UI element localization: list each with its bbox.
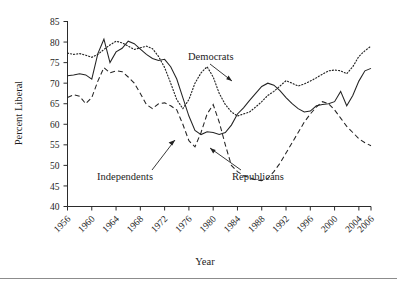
y-tick-label-55: 55 [50, 140, 60, 150]
y-tick-label-80: 80 [50, 38, 60, 48]
y-tick-label-50: 50 [50, 161, 60, 171]
y-tick-label-40: 40 [50, 202, 60, 212]
annotation-label-independents: Independents [97, 171, 153, 182]
y-tick-label-70: 70 [50, 79, 60, 89]
annotation-label-democrats: Democrats [188, 51, 233, 62]
y-tick-label-45: 45 [50, 182, 60, 192]
y-tick-label-65: 65 [50, 99, 60, 109]
liberalism-trend-chart: Percent Liberal 40455055606570758085 195… [0, 0, 397, 284]
y-tick-label-75: 75 [50, 58, 60, 68]
annotation-label-republicans: Republicans [232, 171, 284, 182]
chart-canvas: Percent Liberal 40455055606570758085 195… [0, 0, 397, 284]
y-tick-label-60: 60 [50, 120, 60, 130]
x-axis-title: Year [195, 256, 215, 267]
chart-background [0, 0, 397, 284]
y-axis-title: Percent Liberal [13, 81, 24, 146]
y-tick-label-85: 85 [50, 17, 60, 27]
